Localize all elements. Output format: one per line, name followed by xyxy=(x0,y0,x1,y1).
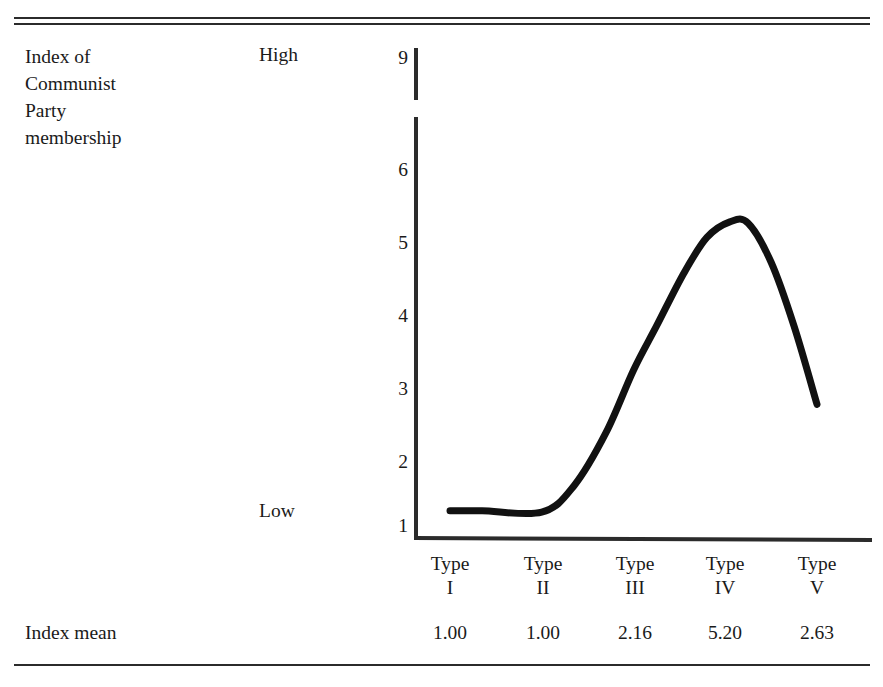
y-tick-label-9: 9 xyxy=(382,48,408,68)
y-tick-label-4: 4 xyxy=(382,306,408,326)
footer-value-type-ii: 1.00 xyxy=(499,622,587,644)
data-series-group xyxy=(450,219,817,514)
x-category-word: Type xyxy=(499,552,587,576)
x-category-numeral: I xyxy=(406,576,494,600)
y-tick-label-5: 5 xyxy=(382,233,408,253)
x-category-label-type-iii: Type III xyxy=(591,552,679,600)
x-category-numeral: IV xyxy=(681,576,769,600)
footer-value-type-i: 1.00 xyxy=(406,622,494,644)
series-line-index-mean xyxy=(450,219,817,514)
x-axis-line xyxy=(414,538,872,540)
x-category-numeral: III xyxy=(591,576,679,600)
y-tick-label-2: 2 xyxy=(382,452,408,472)
x-category-label-type-v: Type V xyxy=(773,552,861,600)
x-category-label-type-iv: Type IV xyxy=(681,552,769,600)
footer-value-type-iii: 2.16 xyxy=(591,622,679,644)
x-category-label-type-ii: Type II xyxy=(499,552,587,600)
axis-group xyxy=(414,48,872,540)
x-category-label-type-i: Type I xyxy=(406,552,494,600)
figure-container: Index of Communist Party membership High… xyxy=(0,0,883,687)
footer-row-label: Index mean xyxy=(25,622,117,644)
y-tick-label-3: 3 xyxy=(382,379,408,399)
footer-value-type-v: 2.63 xyxy=(773,622,861,644)
x-category-word: Type xyxy=(591,552,679,576)
bottom-rule xyxy=(14,664,870,666)
x-category-numeral: V xyxy=(773,576,861,600)
x-category-numeral: II xyxy=(499,576,587,600)
x-category-word: Type xyxy=(406,552,494,576)
y-tick-label-6: 6 xyxy=(382,160,408,180)
footer-value-type-iv: 5.20 xyxy=(681,622,769,644)
x-category-word: Type xyxy=(773,552,861,576)
y-tick-label-1: 1 xyxy=(382,516,408,536)
x-category-word: Type xyxy=(681,552,769,576)
